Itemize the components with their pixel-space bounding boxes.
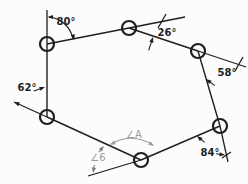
arrowhead-80-left [48, 15, 54, 19]
arrowhead-angle-A-left [110, 141, 116, 145]
arrowhead-angle-6-down [92, 167, 96, 173]
polygon-edge [198, 51, 220, 126]
arrowhead-84-right [219, 152, 225, 156]
label-angle-80: 80° [57, 16, 76, 27]
geometry-diagram: 80°26°58°84°62°∠A∠6 [0, 0, 248, 184]
label-angle-6: ∠6 [90, 152, 105, 163]
arrowhead-62-right [39, 87, 45, 91]
label-angle-84: 84° [201, 147, 220, 158]
label-angle-A: ∠A [126, 129, 142, 140]
polygon-edge [47, 28, 129, 44]
label-angle-62: 62° [18, 82, 37, 93]
worksheet-page: 80°26°58°84°62°∠A∠6 [0, 0, 248, 184]
label-angle-26: 26° [158, 27, 177, 38]
arrowhead-26-lower [149, 37, 153, 43]
arrowhead-62-extension [14, 102, 20, 106]
label-angle-58: 58° [218, 67, 237, 78]
arrowhead-angle-A-right [148, 141, 154, 146]
